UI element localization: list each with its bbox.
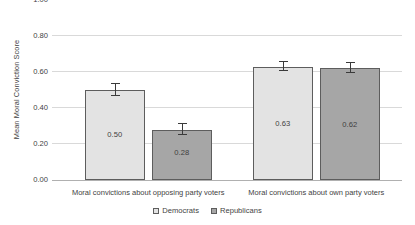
y-axis-tick-label: 1.00 [18, 0, 48, 4]
x-axis-category-labels: Moral convictions about opposing party v… [52, 188, 402, 202]
y-axis-tick-label: 0.20 [18, 140, 48, 148]
y-axis-tick-label: 0.40 [18, 104, 48, 112]
y-axis-tick-label: 0.80 [18, 32, 48, 40]
error-bar-cap [346, 62, 355, 63]
plot-area: 0.500.630.280.62 [52, 0, 402, 181]
error-bar-cap [178, 123, 187, 124]
x-axis-category-label: Moral convictions about opposing party v… [58, 188, 238, 197]
bar-value-label: 0.28 [152, 148, 212, 157]
gridline [52, 35, 402, 36]
x-axis-line [52, 180, 402, 181]
bar-value-label: 0.50 [85, 130, 145, 139]
legend-item-democrats[interactable]: Democrats [153, 206, 199, 215]
legend-swatch-icon [211, 208, 217, 214]
bar-value-label: 0.62 [320, 120, 380, 129]
error-bar-cap [346, 72, 355, 73]
y-axis-tick-labels: 1.000.800.600.400.200.00 [18, 0, 48, 190]
legend-label: Democrats [162, 206, 199, 215]
bar-value-label: 0.63 [253, 119, 313, 128]
legend-label: Republicans [220, 206, 262, 215]
error-bar-cap [111, 83, 120, 84]
chart-legend: DemocratsRepublicans [0, 206, 415, 215]
error-bar-cap [111, 95, 120, 96]
legend-item-republicans[interactable]: Republicans [211, 206, 262, 215]
error-bar-cap [279, 70, 288, 71]
error-bar-cap [178, 134, 187, 135]
y-axis-tick-label: 0.00 [18, 176, 48, 184]
y-axis-tick-label: 0.60 [18, 68, 48, 76]
error-bar-cap [279, 61, 288, 62]
legend-swatch-icon [153, 208, 159, 214]
bar-chart: Mean Moral Conviction Score 1.000.800.60… [0, 0, 415, 225]
x-axis-category-label: Moral convictions about own party voters [226, 188, 406, 197]
